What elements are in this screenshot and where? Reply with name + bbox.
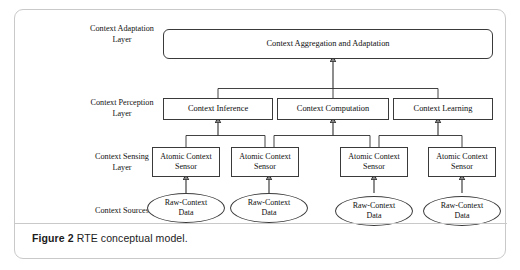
- node-atomic-context-sensor-3[interactable]: Atomic Context Sensor: [340, 147, 408, 177]
- node-context-learning[interactable]: Context Learning: [393, 98, 493, 120]
- figure-caption-text: RTE conceptual model.: [74, 232, 188, 244]
- diagram-canvas: Context Adaptation Layer Context Percept…: [15, 10, 507, 223]
- figure-frame: Context Adaptation Layer Context Percept…: [14, 9, 506, 259]
- figure-caption-label: Figure 2: [32, 232, 74, 244]
- figure-caption: Figure 2 RTE conceptual model.: [32, 232, 492, 244]
- node-raw-context-data-4[interactable]: Raw-Context Data: [423, 196, 501, 226]
- caption-divider: [15, 223, 507, 224]
- layer-label-adaptation: Context Adaptation Layer: [67, 24, 177, 45]
- node-context-aggregation-and-adaptation[interactable]: Context Aggregation and Adaptation: [163, 29, 493, 59]
- node-raw-context-data-2[interactable]: Raw-Context Data: [230, 193, 308, 223]
- node-raw-context-data-1[interactable]: Raw-Context Data: [147, 193, 225, 223]
- node-context-computation[interactable]: Context Computation: [277, 98, 389, 120]
- node-atomic-context-sensor-2[interactable]: Atomic Context Sensor: [231, 147, 299, 177]
- node-context-inference[interactable]: Context Inference: [163, 98, 273, 120]
- node-raw-context-data-3[interactable]: Raw-Context Data: [335, 196, 413, 226]
- node-atomic-context-sensor-4[interactable]: Atomic Context Sensor: [428, 147, 496, 177]
- layer-label-perception: Context Perception Layer: [67, 98, 177, 119]
- node-atomic-context-sensor-1[interactable]: Atomic Context Sensor: [152, 147, 220, 177]
